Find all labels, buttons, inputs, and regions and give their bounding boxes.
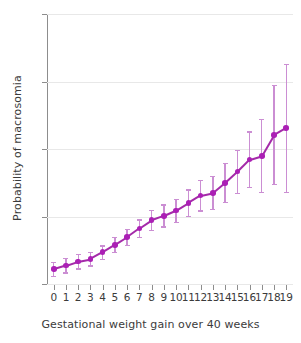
error-bar-cap [149,230,154,231]
chart-figure: Probability of macrosomia 0.02.04.06.08 … [0,0,301,343]
x-tick-mark [54,285,55,290]
error-bar-cap [63,272,68,273]
x-tick-mark [103,285,104,290]
data-point-marker [88,256,94,262]
error-bar-cap [284,64,289,65]
error-bar-cap [272,184,277,185]
x-tick-mark [164,285,165,290]
error-bar-cap [174,222,179,223]
data-point-marker [271,132,277,138]
x-tick-mark [201,285,202,290]
error-bar-cap [198,180,203,181]
x-tick-mark [78,285,79,290]
gridline [47,217,293,218]
error-bar-cap [161,226,166,227]
error-bar-cap [100,245,105,246]
error-bar-cap [76,268,81,269]
x-axis-title: Gestational weight gain over 40 weeks [0,318,301,331]
x-tick-mark [66,285,67,290]
y-tick-mark [42,149,47,150]
data-point-marker [75,259,81,265]
x-tick-mark [286,285,287,290]
y-tick-mark [42,284,47,285]
error-bar-cap [247,131,252,132]
error-bar-cap [76,254,81,255]
gridline [47,82,293,83]
error-bar-cap [88,252,93,253]
x-tick-mark [127,285,128,290]
x-tick-mark [274,285,275,290]
error-bar-cap [186,189,191,190]
error-bar-cap [125,245,130,246]
error-bar-cap [112,252,117,253]
error-bar-cap [235,150,240,151]
error-bar-cap [51,262,56,263]
data-point-marker [51,266,57,272]
x-tick-mark [213,285,214,290]
error-bar-cap [51,276,56,277]
x-tick-mark [250,285,251,290]
y-tick-mark [42,14,47,15]
error-bar-cap [235,193,240,194]
error-bar-cap [210,209,215,210]
data-point-marker [186,200,192,206]
x-tick-mark [225,285,226,290]
x-tick-mark [139,285,140,290]
error-bar-cap [125,229,130,230]
error-bar-cap [198,210,203,211]
error-bar-cap [223,163,228,164]
data-point-marker [100,249,106,255]
x-tick-mark [115,285,116,290]
error-bar-cap [174,199,179,200]
x-tick-mark [188,285,189,290]
data-point-marker [259,153,265,159]
error-bar-cap [100,259,105,260]
data-point-marker [210,190,216,196]
data-point-marker [173,208,179,214]
data-point-marker [235,169,241,175]
error-bar-cap [88,265,93,266]
x-tick-mark [237,285,238,290]
x-tick-mark [90,285,91,290]
gridline [47,149,293,150]
error-bar-cap [247,187,252,188]
error-bar-cap [223,202,228,203]
error-bar-cap [149,210,154,211]
error-bar-cap [210,176,215,177]
error-bar-cap [259,119,264,120]
error-bar-cap [112,237,117,238]
y-axis-tick-labels: 0.02.04.06.08 [0,0,46,343]
data-point-marker [198,193,204,199]
data-point-marker [149,217,155,223]
x-tick-label: 19 [276,291,296,303]
data-point-marker [137,226,143,232]
y-tick-mark [42,217,47,218]
gridline [47,284,293,285]
x-tick-mark [262,285,263,290]
gridline [47,14,293,15]
data-point-marker [124,234,130,240]
plot-area [47,14,293,284]
data-point-marker [63,263,69,269]
error-bar-cap [284,192,289,193]
y-tick-mark [42,82,47,83]
error-bar-cap [259,192,264,193]
error-bar-cap [137,219,142,220]
error-bar-cap [186,216,191,217]
x-tick-mark [176,285,177,290]
error-bar-cap [137,237,142,238]
error-bar-cap [272,85,277,86]
data-point-marker [112,242,118,248]
data-point-marker [283,125,289,131]
error-bar-cap [63,258,68,259]
data-point-marker [247,157,253,163]
x-tick-mark [152,285,153,290]
data-point-marker [161,213,167,219]
error-bar-cap [161,204,166,205]
data-point-marker [222,180,228,186]
